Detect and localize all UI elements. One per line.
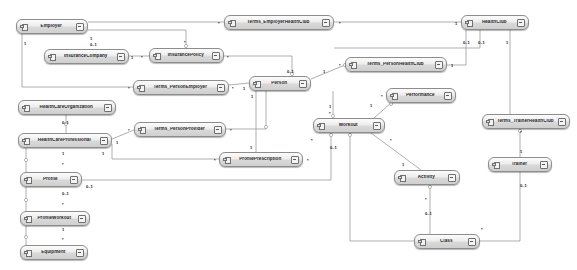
expand-icon[interactable] <box>435 61 443 69</box>
expand-icon[interactable] <box>322 19 330 27</box>
multiplicity-label: 0..1 <box>287 70 294 74</box>
multiplicity-label: 1 <box>116 141 118 145</box>
multiplicity-label: * <box>390 139 392 143</box>
expand-icon[interactable] <box>217 84 225 92</box>
multiplicity-label: * <box>425 198 427 202</box>
expand-icon[interactable] <box>214 126 222 134</box>
class-node-profileworkout[interactable]: ProfileWorkout <box>20 211 90 226</box>
multiplicity-label: 0..1 <box>478 41 485 45</box>
class-node-label: InsuranceCompany <box>55 54 117 59</box>
class-node-label: Activity <box>405 175 448 180</box>
class-node-profile[interactable]: Profile <box>20 172 82 187</box>
multiplicity-label: 1 <box>131 56 133 60</box>
class-node-insurancecompany[interactable]: InsuranceCompany <box>44 49 129 64</box>
class-icon <box>253 80 260 88</box>
edge-insurancepolicy-person <box>224 56 292 76</box>
edge-endpoint <box>428 185 431 188</box>
multiplicity-label: * <box>214 159 216 163</box>
multiplicity-label: * <box>62 203 64 207</box>
edge-endpoint <box>24 158 27 161</box>
multiplicity-label: 1 <box>370 104 372 108</box>
class-node-terms_personprovider[interactable]: Terms_PersonProvider <box>134 122 226 137</box>
class-node-activity[interactable]: Activity <box>394 170 460 185</box>
multiplicity-label: * <box>232 87 234 91</box>
multiplicity-label: 1 <box>451 64 453 68</box>
expand-icon[interactable] <box>448 174 456 182</box>
expand-icon[interactable] <box>540 161 548 169</box>
expand-icon[interactable] <box>468 238 476 246</box>
multiplicity-label: * <box>329 112 331 116</box>
expand-icon[interactable] <box>70 176 78 184</box>
class-icon <box>48 53 55 61</box>
edge-healthcareprofessional-termspersonprovider <box>112 130 134 139</box>
class-node-healthclub[interactable]: HealthClub <box>461 15 529 30</box>
expand-icon[interactable] <box>291 156 299 164</box>
class-icon <box>317 122 324 130</box>
multiplicity-label: 1 <box>329 105 331 109</box>
multiplicity-label: 0..1 <box>330 146 337 150</box>
edge-workout-class <box>350 133 414 241</box>
class-node-label: ProfilePrescription <box>230 157 291 162</box>
multiplicity-label: * <box>62 238 64 242</box>
multiplicity-label: 1 <box>243 87 245 91</box>
multiplicity-label: * <box>141 56 143 60</box>
class-icon <box>22 104 29 112</box>
class-icon <box>20 23 27 31</box>
expand-icon[interactable] <box>76 23 84 31</box>
multiplicity-label: 1 <box>62 152 64 156</box>
class-node-terms_trainerhealthclub[interactable]: Terms_TrainerHealthClub <box>482 114 570 129</box>
class-node-label: Terms_PersonProvider <box>145 127 214 132</box>
multiplicity-label: * <box>218 22 220 26</box>
edge-employer-insurancepolicy <box>88 30 186 48</box>
class-node-terms_employerhealthclub[interactable]: Terms_EmployerHealthClub <box>224 15 334 30</box>
class-node-profileprescription[interactable]: ProfilePrescription <box>219 152 303 167</box>
class-node-terms_personemployer[interactable]: Terms_PersonEmployer <box>133 80 229 95</box>
multiplicity-label: 0..1 <box>520 184 527 188</box>
multiplicity-label: * <box>381 95 383 99</box>
class-icon <box>390 92 397 100</box>
class-node-workout[interactable]: Workout <box>313 118 385 133</box>
class-icon <box>153 52 160 60</box>
expand-icon[interactable] <box>558 118 566 126</box>
class-node-person[interactable]: Person <box>249 76 311 91</box>
edge-termspersonprovider-person <box>226 91 266 129</box>
class-node-equipment[interactable]: Equipment <box>20 245 88 260</box>
multiplicity-label: 1 <box>506 41 508 45</box>
expand-icon[interactable] <box>100 137 108 145</box>
class-node-insurancepolicy[interactable]: InsurancePolicy <box>149 48 224 63</box>
class-icon <box>228 19 235 27</box>
expand-icon[interactable] <box>117 53 125 61</box>
expand-icon[interactable] <box>104 104 112 112</box>
expand-icon[interactable] <box>212 52 220 60</box>
class-icon <box>137 84 144 92</box>
multiplicity-label: * <box>128 87 130 91</box>
multiplicity-label: * <box>128 129 130 133</box>
class-node-label: HealthCareOrganization <box>29 105 104 110</box>
class-node-label: Employer <box>27 24 76 29</box>
class-node-label: Class <box>425 239 468 244</box>
class-icon <box>486 118 493 126</box>
class-node-employer[interactable]: Employer <box>16 19 88 34</box>
class-node-label: Terms_PersonHealthClub <box>356 62 435 67</box>
class-node-healthcareprofessional[interactable]: HealthCareProfessional <box>18 133 112 148</box>
expand-icon[interactable] <box>76 249 84 257</box>
class-node-label: ProfileWorkout <box>31 216 78 221</box>
multiplicity-label: 1 <box>520 150 522 154</box>
expand-icon[interactable] <box>373 122 381 130</box>
edge-termspersonemployer-person <box>229 83 249 85</box>
expand-icon[interactable] <box>299 80 307 88</box>
edge-endpoint <box>24 198 27 201</box>
class-node-trainer[interactable]: Trainer <box>488 157 552 172</box>
class-node-terms_personhealthclub[interactable]: Terms_PersonHealthClub <box>345 57 447 72</box>
class-icon <box>492 161 499 169</box>
multiplicity-label: * <box>62 163 64 167</box>
class-node-class[interactable]: Class <box>414 234 480 249</box>
class-node-healthcareorganization[interactable]: HealthCareOrganization <box>18 100 116 115</box>
expand-icon[interactable] <box>78 215 86 223</box>
expand-icon[interactable] <box>444 92 452 100</box>
expand-icon[interactable] <box>517 19 525 27</box>
multiplicity-label: * <box>339 22 341 26</box>
multiplicity-label: 1 <box>250 146 252 150</box>
class-node-performance[interactable]: Performance <box>386 88 456 103</box>
edge-healthclub-termsemployerhealthclub-rail <box>334 30 480 48</box>
